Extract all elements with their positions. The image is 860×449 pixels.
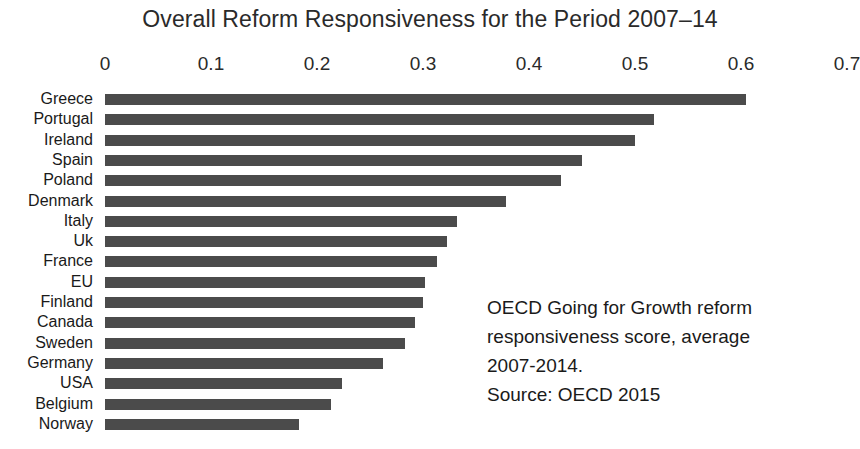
bar-category-label: Uk [0,231,93,251]
bar-fill [105,419,299,430]
bar [105,196,506,207]
x-axis: 00.10.20.30.40.50.60.7 [0,53,860,79]
chart-title: Overall Reform Responsiveness for the Pe… [0,6,860,33]
x-axis-tick-label: 0.7 [834,53,860,75]
bar-row: Uk [0,231,860,251]
x-axis-tick-label: 0.4 [516,53,542,75]
chart-annotation: OECD Going for Growth reformresponsivene… [487,293,847,409]
x-axis-tick-label: 0 [100,53,111,75]
annotation-line: Source: OECD 2015 [487,380,847,409]
bar-fill [105,297,423,308]
bar-fill [105,135,635,146]
x-axis-tick-label: 0.1 [198,53,224,75]
bar [105,378,342,389]
bar-category-label: Norway [0,414,93,434]
bar-row: Denmark [0,191,860,211]
bar-category-label: Portugal [0,109,93,129]
bar [105,155,582,166]
x-axis-tick-label: 0.6 [728,53,754,75]
bar-category-label: Belgium [0,394,93,414]
bar-fill [105,256,437,267]
bar-chart: Overall Reform Responsiveness for the Pe… [0,0,860,449]
bar [105,236,447,247]
x-axis-tick-label: 0.2 [304,53,330,75]
bar-fill [105,378,342,389]
bar-category-label: Finland [0,292,93,312]
bar-row: Italy [0,211,860,231]
bar-category-label: EU [0,272,93,292]
bar [105,399,331,410]
bar-row: Poland [0,170,860,190]
bar [105,338,405,349]
annotation-line: responsiveness score, average [487,322,847,351]
bar-row: Greece [0,89,860,109]
bar [105,419,299,430]
bar [105,216,457,227]
bar-fill [105,114,654,125]
bar-category-label: Canada [0,312,93,332]
annotation-line: 2007-2014. [487,351,847,380]
bar [105,358,383,369]
bar-fill [105,317,415,328]
bar-fill [105,277,425,288]
bar-category-label: Italy [0,211,93,231]
bar-category-label: Spain [0,150,93,170]
bar-row: Spain [0,150,860,170]
bar-category-label: Ireland [0,130,93,150]
bar-row: Ireland [0,130,860,150]
bar [105,94,746,105]
bar [105,297,423,308]
bar [105,277,425,288]
bar-category-label: USA [0,373,93,393]
bar-category-label: Poland [0,170,93,190]
bar-fill [105,94,746,105]
bar-category-label: Germany [0,353,93,373]
bar-row: Norway [0,414,860,434]
bar-fill [105,216,457,227]
bar-fill [105,338,405,349]
bar-row: France [0,251,860,271]
bar-fill [105,175,561,186]
x-axis-tick-label: 0.3 [410,53,436,75]
bar-row: EU [0,272,860,292]
bar-fill [105,358,383,369]
bar-fill [105,155,582,166]
bar [105,114,654,125]
bar [105,135,635,146]
bar-category-label: Denmark [0,191,93,211]
bar-row: Portugal [0,109,860,129]
bar [105,175,561,186]
x-axis-tick-label: 0.5 [622,53,648,75]
bar [105,256,437,267]
bar [105,317,415,328]
bar-category-label: Sweden [0,333,93,353]
bar-fill [105,399,331,410]
annotation-line: OECD Going for Growth reform [487,293,847,322]
bar-category-label: Greece [0,89,93,109]
bar-category-label: France [0,251,93,271]
bar-fill [105,196,506,207]
bar-fill [105,236,447,247]
